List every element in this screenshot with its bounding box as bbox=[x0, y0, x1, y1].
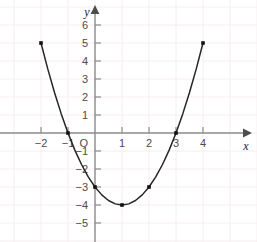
graph-figure: −2 −1 1 2 3 4 6 5 4 3 2 1 −1 −2 −3 −4 −5… bbox=[0, 0, 257, 242]
y-tick-label-5: 5 bbox=[82, 37, 88, 49]
data-point-right-root bbox=[174, 131, 178, 135]
plot-background bbox=[0, 0, 257, 242]
y-tick-label-neg4: −4 bbox=[75, 199, 88, 211]
y-axis-label: y bbox=[83, 5, 90, 19]
y-tick-label-3: 3 bbox=[82, 73, 88, 85]
x-tick-label-neg2: −2 bbox=[35, 137, 48, 149]
data-point-left-endpoint bbox=[39, 41, 43, 45]
x-tick-label-1: 1 bbox=[119, 137, 125, 149]
cartesian-plot: −2 −1 1 2 3 4 6 5 4 3 2 1 −1 −2 −3 −4 −5… bbox=[0, 0, 257, 242]
y-tick-label-6: 6 bbox=[82, 19, 88, 31]
x-axis-label: x bbox=[242, 139, 249, 153]
data-point-left-root bbox=[66, 131, 70, 135]
data-point-vertex bbox=[120, 203, 124, 207]
data-point-2 bbox=[147, 185, 151, 189]
y-tick-label-neg3: −3 bbox=[75, 181, 88, 193]
y-tick-label-2: 2 bbox=[82, 91, 88, 103]
data-point-right-endpoint bbox=[201, 41, 205, 45]
data-point-y-intercept bbox=[93, 185, 97, 189]
x-tick-label-2: 2 bbox=[146, 137, 152, 149]
y-tick-label-1: 1 bbox=[82, 109, 88, 121]
y-tick-label-4: 4 bbox=[82, 55, 88, 67]
y-tick-label-neg5: −5 bbox=[75, 217, 88, 229]
origin-label: O bbox=[79, 137, 88, 149]
x-tick-label-4: 4 bbox=[200, 137, 206, 149]
